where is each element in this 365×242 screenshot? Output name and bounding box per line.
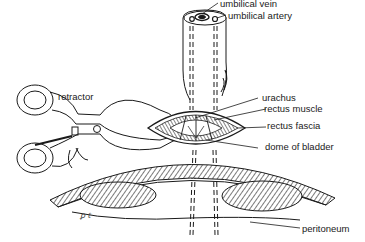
abdominal-wall-section [50, 164, 335, 220]
label-retractor: retractor [58, 92, 93, 102]
artist-signature: ꝑ ℓ [80, 211, 91, 220]
rectus-muscle-right-section [222, 181, 302, 211]
label-rectus-fascia: rectus fascia [267, 121, 320, 131]
rectus-muscle-left-section [80, 182, 156, 208]
label-umbilical-vein: umbilical vein [220, 0, 277, 9]
label-urachus: urachus [262, 93, 296, 103]
peritoneum-line [72, 212, 300, 220]
label-umbilical-artery: umbilical artery [228, 11, 292, 21]
label-dome-of-bladder: dome of bladder [265, 142, 334, 152]
label-rectus-muscle: rectus muscle [264, 104, 323, 114]
label-peritoneum: peritoneum [302, 224, 350, 234]
